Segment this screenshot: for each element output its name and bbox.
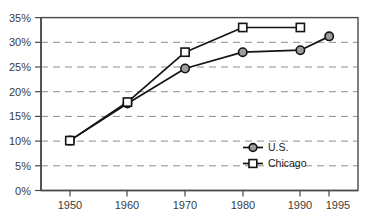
legend-label-chicago: Chicago [268,157,307,169]
x-tick-marks [70,191,329,197]
legend-entry-chicago: Chicago [243,157,307,169]
xtick-label-1995: 1995 [326,199,350,211]
chart-legend: U.S. Chicago [243,141,307,169]
data-point-square-marker [66,137,74,145]
y-axis-labels: 35% 30% 25% 20% 15% 10% 5% 0% [9,12,31,197]
data-series-layer [66,23,334,144]
xtick-label-1950: 1950 [58,199,82,211]
data-point-circle-marker [325,32,333,40]
ytick-label-35: 35% [9,12,31,24]
data-point-circle-marker [296,46,304,54]
data-point-square-marker [181,48,189,56]
ytick-label-20: 20% [9,86,31,98]
data-point-square-marker [239,23,247,31]
data-point-square-marker [123,98,131,106]
series-line [70,27,301,140]
ytick-label-5: 5% [15,160,31,172]
line-chart: 35% 30% 25% 20% 15% 10% 5% 0% 1950 1960 … [0,0,376,224]
xtick-label-1970: 1970 [173,199,197,211]
series-chicago [66,23,305,144]
data-point-square-marker [296,23,304,31]
legend-marker-circle-icon [249,144,257,152]
xtick-label-1990: 1990 [288,199,312,211]
series-line [70,36,329,140]
data-point-circle-marker [239,48,247,56]
ytick-label-10: 10% [9,135,31,147]
plot-frame [41,18,358,191]
ytick-label-15: 15% [9,110,31,122]
data-point-circle-marker [181,64,189,72]
ytick-label-30: 30% [9,36,31,48]
chart-container: 35% 30% 25% 20% 15% 10% 5% 0% 1950 1960 … [0,0,376,224]
legend-marker-square-icon [249,160,257,168]
xtick-label-1960: 1960 [115,199,139,211]
legend-entry-us: U.S. [243,141,288,153]
ytick-label-0: 0% [15,185,31,197]
legend-label-us: U.S. [268,141,288,153]
gridlines [41,42,358,166]
y-tick-marks [35,18,41,191]
ytick-label-25: 25% [9,61,31,73]
x-axis-labels: 1950 1960 1970 1980 1990 1995 [58,199,350,211]
xtick-label-1980: 1980 [231,199,255,211]
series-u-s [66,32,334,145]
